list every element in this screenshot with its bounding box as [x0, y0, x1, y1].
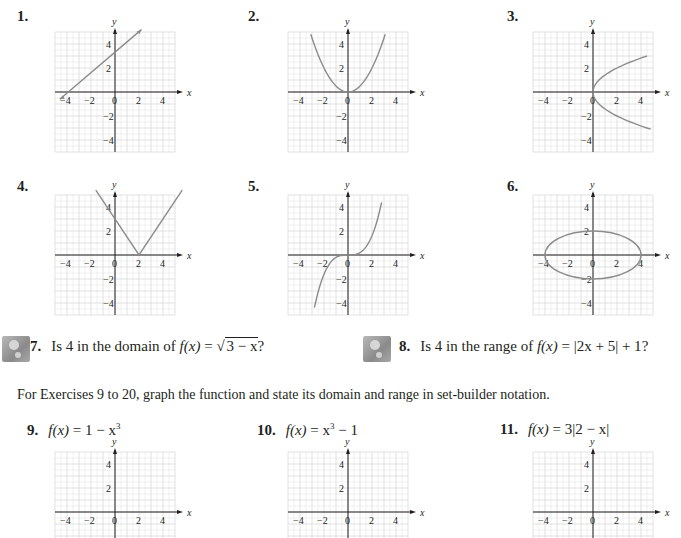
svg-text:−4: −4: [293, 515, 304, 526]
svg-text:2: 2: [339, 483, 344, 494]
graph-4: xy−4−202442−2−4: [55, 195, 175, 315]
svg-text:y: y: [589, 16, 595, 27]
svg-text:−2: −2: [581, 111, 592, 122]
svg-text:0: 0: [345, 258, 350, 269]
svg-text:−4: −4: [60, 95, 71, 106]
function-9: 9.f(x) = 1 − x3: [27, 421, 121, 439]
graph-11-blank[interactable]: xy−4−202442: [533, 452, 653, 538]
graph-3: xy−4−202442−2−4: [533, 32, 653, 152]
svg-text:2: 2: [369, 258, 374, 269]
svg-text:x: x: [186, 87, 192, 98]
svg-text:4: 4: [584, 202, 589, 213]
svg-text:−4: −4: [293, 95, 304, 106]
svg-text:4: 4: [584, 459, 589, 470]
svg-text:4: 4: [584, 39, 589, 50]
graph-9-blank[interactable]: xy−4−202442: [55, 452, 175, 538]
svg-text:0: 0: [112, 258, 117, 269]
svg-text:−4: −4: [60, 258, 71, 269]
svg-text:−4: −4: [293, 258, 304, 269]
svg-text:−4: −4: [538, 95, 549, 106]
svg-text:4: 4: [160, 515, 165, 526]
svg-text:−2: −2: [103, 274, 114, 285]
svg-text:x: x: [664, 87, 670, 98]
svg-text:2: 2: [136, 95, 141, 106]
svg-text:x: x: [419, 250, 425, 261]
svg-text:−4: −4: [581, 298, 592, 309]
svg-text:2: 2: [339, 226, 344, 237]
svg-text:x: x: [419, 507, 425, 518]
svg-text:y: y: [111, 179, 117, 190]
svg-text:−2: −2: [562, 258, 573, 269]
svg-text:4: 4: [339, 202, 344, 213]
svg-text:−2: −2: [317, 258, 328, 269]
graph-6: xy−4−202442−2−4: [533, 195, 653, 315]
instructions: For Exercises 9 to 20, graph the functio…: [17, 387, 550, 403]
svg-text:4: 4: [638, 515, 643, 526]
svg-text:4: 4: [160, 95, 165, 106]
svg-text:0: 0: [590, 258, 595, 269]
question-8: 8.Is 4 in the range of f(x) = |2x + 5| +…: [399, 338, 648, 355]
svg-text:4: 4: [393, 258, 398, 269]
svg-text:−4: −4: [103, 135, 114, 146]
thinker-icon: [2, 336, 30, 362]
svg-text:−4: −4: [538, 258, 549, 269]
thinker-icon: [363, 336, 391, 362]
graph-5: xy−4−202442−2−4: [288, 195, 408, 315]
graph-10-blank[interactable]: xy−4−202442: [288, 452, 408, 538]
exercise-number-5: 5.: [248, 178, 259, 195]
svg-text:4: 4: [638, 95, 643, 106]
svg-text:y: y: [344, 436, 350, 447]
svg-text:2: 2: [584, 483, 589, 494]
svg-text:−2: −2: [84, 258, 95, 269]
svg-text:0: 0: [345, 515, 350, 526]
svg-text:4: 4: [339, 459, 344, 470]
svg-text:0: 0: [345, 95, 350, 106]
svg-text:−2: −2: [317, 95, 328, 106]
svg-text:2: 2: [136, 258, 141, 269]
question-7: 7.Is 4 in the domain of f(x) = √3 − x?: [30, 338, 264, 355]
svg-text:x: x: [664, 250, 670, 261]
svg-text:−2: −2: [562, 515, 573, 526]
svg-text:−2: −2: [103, 111, 114, 122]
svg-text:4: 4: [393, 515, 398, 526]
svg-text:−4: −4: [336, 298, 347, 309]
svg-text:0: 0: [590, 515, 595, 526]
svg-text:2: 2: [369, 515, 374, 526]
svg-text:2: 2: [614, 258, 619, 269]
svg-text:−4: −4: [581, 135, 592, 146]
svg-text:y: y: [589, 179, 595, 190]
svg-text:2: 2: [136, 515, 141, 526]
svg-text:y: y: [344, 179, 350, 190]
svg-text:4: 4: [160, 258, 165, 269]
graph-1: xy−4−202442−2−4: [55, 32, 175, 152]
svg-text:x: x: [664, 507, 670, 518]
svg-text:−2: −2: [317, 515, 328, 526]
exercise-number-2: 2.: [248, 8, 259, 25]
svg-text:−2: −2: [562, 95, 573, 106]
svg-text:−4: −4: [103, 298, 114, 309]
svg-text:2: 2: [106, 483, 111, 494]
svg-text:−2: −2: [84, 515, 95, 526]
svg-text:2: 2: [106, 226, 111, 237]
exercise-number-3: 3.: [507, 8, 518, 25]
svg-text:−4: −4: [336, 135, 347, 146]
svg-text:y: y: [589, 436, 595, 447]
svg-text:0: 0: [112, 95, 117, 106]
svg-text:−4: −4: [538, 515, 549, 526]
svg-text:x: x: [186, 250, 192, 261]
svg-text:4: 4: [106, 39, 111, 50]
svg-text:y: y: [111, 16, 117, 27]
svg-text:4: 4: [339, 39, 344, 50]
svg-text:y: y: [111, 436, 117, 447]
svg-text:−2: −2: [336, 274, 347, 285]
svg-text:−4: −4: [60, 515, 71, 526]
svg-text:2: 2: [614, 95, 619, 106]
svg-text:−2: −2: [336, 111, 347, 122]
exercise-number-6: 6.: [507, 178, 518, 195]
svg-text:x: x: [419, 87, 425, 98]
svg-text:−2: −2: [84, 95, 95, 106]
function-10: 10.f(x) = x3 − 1: [257, 421, 358, 439]
svg-text:x: x: [186, 507, 192, 518]
exercise-number-4: 4.: [17, 178, 28, 195]
svg-text:4: 4: [106, 459, 111, 470]
